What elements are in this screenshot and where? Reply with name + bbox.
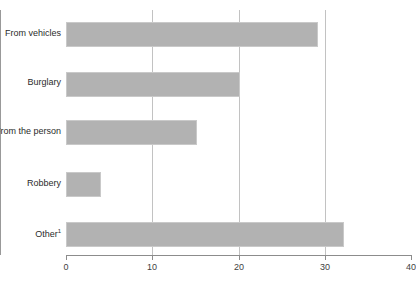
tick-mark-40: [411, 256, 412, 260]
bar-from-the-person: [66, 120, 197, 145]
x-tick-label-30: 30: [320, 262, 330, 272]
bar-robbery: [66, 172, 101, 197]
tick-mark-10: [152, 256, 153, 260]
tick-mark-0: [66, 256, 67, 260]
category-label-burglary: Burglary: [27, 77, 61, 87]
category-label-robbery: Robbery: [27, 178, 61, 188]
x-tick-label-10: 10: [147, 262, 157, 272]
category-label-other-text: Other: [35, 229, 58, 239]
bar-chart: 0 10 20 30 40 From vehicles Burglary Fro…: [0, 0, 416, 282]
tick-mark-30: [325, 256, 326, 260]
category-label-from-the-person: From the person: [0, 126, 61, 136]
gridline-30: [325, 10, 326, 255]
bar-burglary: [66, 72, 240, 97]
x-tick-label-0: 0: [63, 262, 68, 272]
category-label-from-vehicles: From vehicles: [5, 28, 61, 38]
x-tick-label-20: 20: [234, 262, 244, 272]
footnote-marker-other: 1: [58, 228, 61, 234]
category-label-other: Other1: [35, 228, 61, 239]
tick-mark-20: [239, 256, 240, 260]
x-tick-label-40: 40: [406, 262, 416, 272]
bar-from-vehicles: [66, 22, 318, 47]
bar-other: [66, 222, 344, 247]
